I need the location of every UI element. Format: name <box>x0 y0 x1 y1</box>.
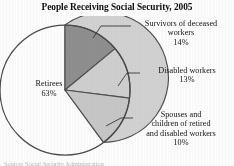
callout-disabled-workers: Disabled workers 13% <box>140 66 234 85</box>
callout-spouses-percent: 10% <box>128 138 234 147</box>
callout-spouses-line1: Spouses and <box>128 110 234 119</box>
callout-spouses-line2: children of retired <box>128 119 234 128</box>
callout-survivors-percent: 14% <box>128 38 234 47</box>
callout-spouses-line3: and disabled workers <box>128 129 234 138</box>
callout-survivors: Survivors of deceased workers 14% <box>128 19 234 47</box>
pie-chart-figure: People Receiving Social Security, 2005 R… <box>0 0 234 166</box>
chart-title: People Receiving Social Security, 2005 <box>0 2 234 12</box>
source-note: Source: Social Security Administration <box>4 160 154 166</box>
callout-spouses-children: Spouses and children of retired and disa… <box>128 110 234 148</box>
callout-survivors-line2: workers <box>128 28 234 37</box>
callout-disabled-line1: Disabled workers <box>140 66 234 75</box>
callout-disabled-percent: 13% <box>140 75 234 84</box>
callout-survivors-line1: Survivors of deceased <box>128 19 234 28</box>
